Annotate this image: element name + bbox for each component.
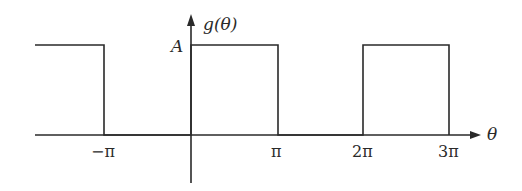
square-wave-figure: g(θ) A θ −π π 2π 3π	[0, 0, 522, 191]
y-axis-arrow-icon	[187, 14, 195, 26]
amplitude-label: A	[171, 38, 183, 55]
tick-label-3pi: 3π	[438, 144, 459, 160]
tick-label-neg-pi: −π	[91, 144, 115, 160]
x-axis-label: θ	[487, 126, 497, 143]
x-axis-arrow-icon	[470, 131, 481, 139]
plot-canvas	[0, 0, 522, 191]
tick-label-pi: π	[271, 144, 282, 160]
y-axis-label: g(θ)	[203, 16, 237, 33]
waveform-g-theta	[35, 45, 449, 135]
tick-label-2pi: 2π	[352, 144, 373, 160]
